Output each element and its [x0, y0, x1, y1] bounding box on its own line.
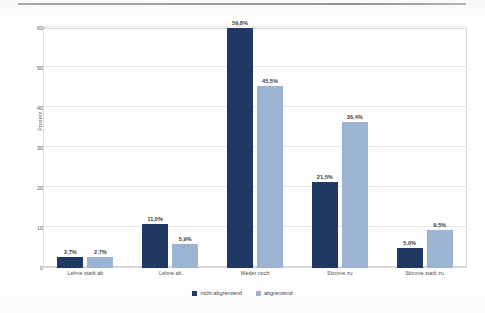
y-axis-tick-label: 30	[19, 145, 43, 151]
legend-item[interactable]: nicht-abgrenzend	[192, 290, 242, 296]
bar-value-label: 59,8%	[218, 20, 262, 26]
bar-value-label: 5,0%	[388, 240, 432, 246]
bar-group: 21,5%36,4%	[312, 28, 368, 268]
legend-swatch-icon	[192, 291, 197, 296]
bar-value-label: 11,0%	[133, 216, 177, 222]
bar-abgrenzend[interactable]	[257, 86, 283, 268]
bar-nicht-abgrenzend[interactable]	[227, 28, 253, 267]
y-axis-tick-label: 50	[19, 65, 43, 71]
bar-group: 59,8%45,5%	[227, 28, 283, 268]
legend-label: abgrenzend	[264, 290, 292, 296]
bar-value-label: 2,7%	[78, 249, 122, 255]
bar-nicht-abgrenzend[interactable]	[142, 224, 168, 268]
legend-label: nicht-abgrenzend	[200, 290, 242, 296]
bar-nicht-abgrenzend[interactable]	[57, 257, 83, 268]
bars-layer: 2,7%2,7%11,0%5,9%59,8%45,5%21,5%36,4%5,0…	[43, 28, 467, 268]
category-label: Stimme stark zu	[370, 270, 480, 276]
bar-nicht-abgrenzend[interactable]	[312, 182, 338, 268]
bar-abgrenzend[interactable]	[342, 122, 368, 268]
y-axis: 0102030405060	[16, 28, 43, 268]
bar-group: 2,7%2,7%	[57, 28, 113, 268]
bar-value-label: 5,9%	[163, 236, 207, 242]
y-axis-tick-label: 60	[19, 25, 43, 31]
x-axis-category-labels: Lehne stark abLehne abWeder nochStimme z…	[43, 270, 467, 284]
bar-nicht-abgrenzend[interactable]	[397, 248, 423, 268]
chart-legend: nicht-abgrenzendabgrenzend	[0, 290, 485, 296]
bar-abgrenzend[interactable]	[427, 230, 453, 268]
legend-swatch-icon	[256, 291, 261, 296]
bar-value-label: 21,5%	[303, 174, 347, 180]
legend-item[interactable]: abgrenzend	[256, 290, 292, 296]
bar-abgrenzend[interactable]	[172, 244, 198, 268]
bar-abgrenzend[interactable]	[87, 257, 113, 268]
bar-value-label: 9,5%	[418, 222, 462, 228]
y-axis-tick-label: 10	[19, 225, 43, 231]
bar-chart-figure: Prozent 0102030405060 2,7%2,7%11,0%5,9%5…	[0, 0, 485, 313]
bar-group: 5,0%9,5%	[397, 28, 453, 268]
y-axis-tick-label: 20	[19, 185, 43, 191]
bar-group: 11,0%5,9%	[142, 28, 198, 268]
y-axis-tick-label: 40	[19, 105, 43, 111]
bar-value-label: 36,4%	[333, 114, 377, 120]
bar-value-label: 45,5%	[248, 78, 292, 84]
